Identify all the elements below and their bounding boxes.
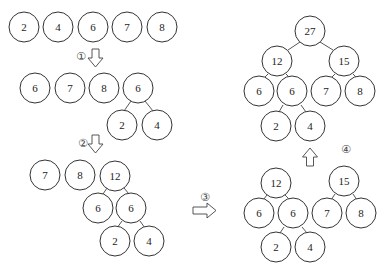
step-3-arrow: ③ [193, 191, 216, 219]
svg-text:8: 8 [77, 169, 83, 181]
tree-node: 6 [244, 76, 274, 106]
svg-text:7: 7 [124, 21, 130, 33]
svg-text:8: 8 [159, 21, 165, 33]
tree-node: 15 [329, 166, 359, 196]
svg-text:12: 12 [110, 170, 121, 182]
svg-text:6: 6 [128, 202, 134, 214]
tree-node: 6 [277, 76, 307, 106]
svg-text:6: 6 [256, 207, 262, 219]
svg-text:27: 27 [305, 25, 317, 37]
stage-0: 2 4 6 7 8 [9, 12, 177, 42]
tree-node: 2 [261, 232, 291, 262]
tree-node: 4 [142, 110, 172, 140]
step-3-label: ③ [200, 191, 210, 204]
tree-node: 12 [262, 46, 292, 76]
svg-text:2: 2 [273, 241, 279, 253]
tree-node: 6 [83, 193, 113, 223]
svg-text:4: 4 [154, 119, 160, 131]
svg-text:4: 4 [146, 235, 152, 247]
svg-text:2: 2 [21, 21, 27, 33]
step-2-label: ② [78, 137, 88, 150]
tree-node: 7 [312, 198, 342, 228]
tree-node: 4 [295, 111, 325, 141]
step-4-label: ④ [341, 143, 351, 156]
svg-text:2: 2 [119, 119, 125, 131]
stage-1: 6 7 8 6 2 4 [20, 73, 172, 140]
tree-node: 8 [65, 160, 95, 190]
svg-text:7: 7 [42, 169, 48, 181]
svg-text:6: 6 [32, 82, 38, 94]
tree-node: 8 [346, 198, 376, 228]
tree-node: 6 [20, 73, 50, 103]
tree-node: 8 [345, 76, 375, 106]
svg-text:6: 6 [256, 85, 262, 97]
svg-text:2: 2 [112, 235, 118, 247]
stage-3: 12 6 6 2 4 15 7 8 [244, 166, 376, 262]
down-arrow-icon [88, 49, 103, 67]
stage-2: 7 8 12 6 6 2 4 [30, 160, 164, 256]
svg-text:8: 8 [101, 82, 107, 94]
svg-text:4: 4 [55, 21, 61, 33]
down-arrow-icon [88, 135, 103, 153]
step-2-arrow: ② [78, 135, 103, 153]
svg-text:2: 2 [273, 120, 279, 132]
tree-node: 2 [261, 111, 291, 141]
svg-text:7: 7 [323, 85, 329, 97]
right-arrow-icon [193, 203, 216, 218]
tree-node: 4 [43, 12, 73, 42]
tree-node: 2 [107, 110, 137, 140]
tree-node: 4 [295, 232, 325, 262]
tree-node: 27 [295, 16, 325, 46]
up-arrow-icon [303, 148, 318, 166]
svg-text:6: 6 [135, 82, 141, 94]
tree-node: 6 [244, 198, 274, 228]
svg-text:4: 4 [307, 120, 313, 132]
svg-text:6: 6 [290, 207, 296, 219]
tree-node: 8 [89, 73, 119, 103]
svg-text:8: 8 [357, 85, 363, 97]
tree-node: 2 [9, 12, 39, 42]
tree-node: 12 [261, 168, 291, 198]
huffman-diagram: 2 4 6 7 8 ① 6 7 8 6 2 4 ② 7 8 12 6 6 2 4 [0, 0, 390, 274]
svg-text:12: 12 [272, 55, 283, 67]
tree-node: 8 [147, 12, 177, 42]
tree-node: 15 [329, 46, 359, 76]
step-4-arrow: ④ [303, 143, 352, 167]
tree-node: 6 [116, 193, 146, 223]
tree-node: 6 [278, 198, 308, 228]
stage-4: 27 12 15 6 6 7 8 2 4 [244, 16, 375, 141]
svg-text:7: 7 [324, 207, 330, 219]
tree-node: 7 [55, 73, 85, 103]
svg-text:12: 12 [271, 177, 282, 189]
tree-node: 6 [123, 73, 153, 103]
tree-node: 12 [100, 161, 130, 191]
svg-text:4: 4 [307, 241, 313, 253]
tree-node: 7 [30, 160, 60, 190]
tree-node: 4 [134, 226, 164, 256]
svg-text:15: 15 [339, 175, 351, 187]
tree-node: 7 [311, 76, 341, 106]
tree-node: 6 [78, 12, 108, 42]
svg-text:7: 7 [67, 82, 73, 94]
step-1-label: ① [76, 50, 86, 63]
tree-node: 2 [100, 226, 130, 256]
svg-text:6: 6 [95, 202, 101, 214]
svg-text:6: 6 [289, 85, 295, 97]
svg-text:15: 15 [339, 55, 351, 67]
svg-text:8: 8 [358, 207, 364, 219]
step-1-arrow: ① [76, 49, 103, 67]
svg-text:6: 6 [90, 21, 96, 33]
tree-node: 7 [112, 12, 142, 42]
